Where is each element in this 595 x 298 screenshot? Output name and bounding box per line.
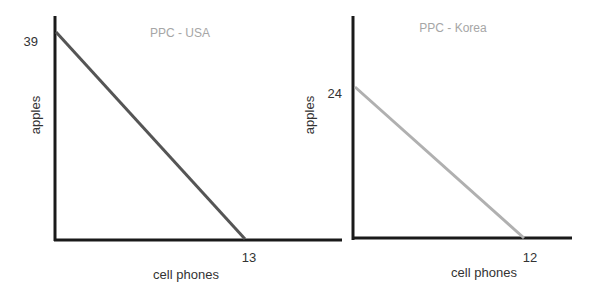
- chart-korea: PPC - Korea 24 12 cell phones apples: [302, 16, 572, 280]
- usa-ppc-line: [56, 32, 245, 239]
- korea-chart-title: PPC - Korea: [419, 21, 487, 35]
- usa-x-axis-label: cell phones: [153, 267, 219, 282]
- chart-usa: PPC - USA 39 13 cell phones apples: [24, 16, 342, 282]
- korea-ppc-line: [355, 87, 524, 238]
- usa-y-axis-label: apples: [28, 95, 43, 134]
- korea-x-axis-label: cell phones: [451, 265, 517, 280]
- usa-x-tick-label: 13: [242, 250, 256, 265]
- usa-y-tick-label: 39: [24, 34, 38, 49]
- ppc-figure: PPC - USA 39 13 cell phones apples PPC -…: [0, 0, 595, 298]
- korea-y-axis-label: apples: [302, 95, 317, 134]
- usa-chart-title: PPC - USA: [150, 26, 210, 40]
- korea-x-tick-label: 12: [523, 250, 537, 265]
- korea-y-tick-label: 24: [328, 86, 342, 101]
